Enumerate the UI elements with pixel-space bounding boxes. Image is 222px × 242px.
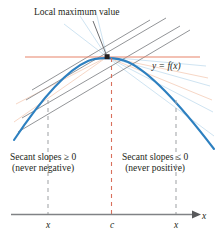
- x-tick-label-center: c: [105, 220, 119, 230]
- local-maximum-annotation: Local maximum value: [34, 7, 119, 18]
- right-secant-note: Secant slopes ≤ 0 (never positive): [122, 152, 188, 174]
- function-curve: [14, 58, 214, 149]
- figure-canvas: [0, 0, 222, 242]
- local-maximum-figure: Local maximum value y = f(x) Secant slop…: [0, 0, 222, 242]
- left-secant-note-line1: Secant slopes ≥ 0: [10, 152, 76, 163]
- secant-lines-gray: [18, 18, 190, 132]
- x-tick-label-right: x: [169, 220, 183, 230]
- right-secant-note-line1: Secant slopes ≤ 0: [122, 152, 188, 163]
- x-tick-label-left: x: [41, 220, 55, 230]
- left-secant-note: Secant slopes ≥ 0 (never negative): [10, 152, 76, 174]
- right-secant-note-line2: (never positive): [122, 163, 188, 174]
- maximum-point-marker: [105, 54, 110, 59]
- left-secant-note-line2: (never negative): [10, 163, 76, 174]
- secant-lines-faint-blue: [64, 12, 107, 57]
- x-axis-arrowhead: [192, 211, 201, 219]
- function-label: y = f(x): [152, 61, 181, 72]
- x-axis-label: x: [202, 211, 206, 221]
